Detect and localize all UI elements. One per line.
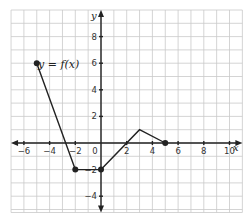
function-graph: −6−4−20246810−4−22468 y = f(x) x y	[0, 0, 247, 219]
grid-lines	[11, 10, 242, 213]
svg-text:0: 0	[92, 146, 97, 156]
x-axis-label: x	[233, 142, 239, 153]
svg-text:8: 8	[201, 146, 206, 156]
svg-text:−4: −4	[43, 146, 56, 156]
svg-text:−4: −4	[84, 191, 97, 201]
svg-text:6: 6	[175, 146, 180, 156]
svg-text:−6: −6	[18, 146, 31, 156]
svg-text:4: 4	[92, 85, 97, 95]
svg-text:2: 2	[92, 111, 97, 121]
y-axis-label: y	[90, 10, 97, 21]
svg-text:8: 8	[92, 32, 97, 42]
svg-text:−2: −2	[69, 146, 82, 156]
function-label: y = f(x)	[37, 58, 79, 71]
svg-text:6: 6	[92, 58, 97, 68]
svg-text:2: 2	[124, 146, 129, 156]
svg-text:4: 4	[150, 146, 155, 156]
